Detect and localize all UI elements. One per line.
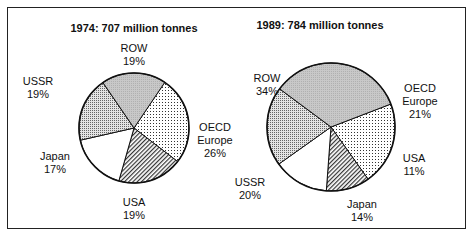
slice-label-ussr: USSR20%: [235, 176, 266, 201]
chart-title-1974: 1974: 707 million tonnes: [70, 22, 197, 34]
slice-label-japan: Japan17%: [40, 150, 70, 175]
pie-charts: 1974: 707 million tonnes 1989: 784 milli…: [0, 0, 476, 234]
slice-label-japan: Japan14%: [347, 198, 377, 223]
chart-title-1989: 1989: 784 million tonnes: [256, 19, 383, 31]
slice-label-usa: USA11%: [403, 152, 426, 177]
slice-label-oecd-europe: OECDEurope26%: [197, 121, 232, 159]
slice-label-usa: USA19%: [123, 196, 146, 221]
slice-label-row: ROW19%: [121, 42, 149, 67]
slice-label-oecd-europe: OECDEurope21%: [402, 82, 437, 120]
pie-1974: OECDEurope26%USA19%Japan17%USSR19%ROW19%: [23, 42, 233, 221]
pie-1989: OECDEurope21%USA11%Japan14%USSR20%ROW34%: [235, 63, 438, 223]
slice-label-ussr: USSR19%: [23, 75, 54, 100]
